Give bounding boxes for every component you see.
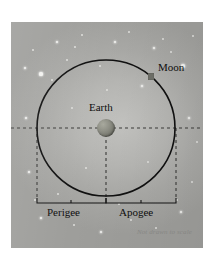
figure-root: Earth Moon Perigee Apogee Not drawn to s… (0, 0, 214, 257)
not-to-scale-footnote: Not drawn to scale (137, 228, 192, 236)
earth-sphere (97, 119, 115, 137)
moon-label: Moon (158, 62, 184, 73)
moon-marker (148, 73, 154, 80)
apogee-bracket (106, 198, 176, 203)
perigee-label: Perigee (47, 207, 80, 218)
apogee-label: Apogee (119, 207, 153, 218)
perigee-bracket (37, 198, 106, 203)
earth-label: Earth (89, 102, 113, 113)
space-background-panel: Earth Moon Perigee Apogee Not drawn to s… (11, 22, 203, 248)
